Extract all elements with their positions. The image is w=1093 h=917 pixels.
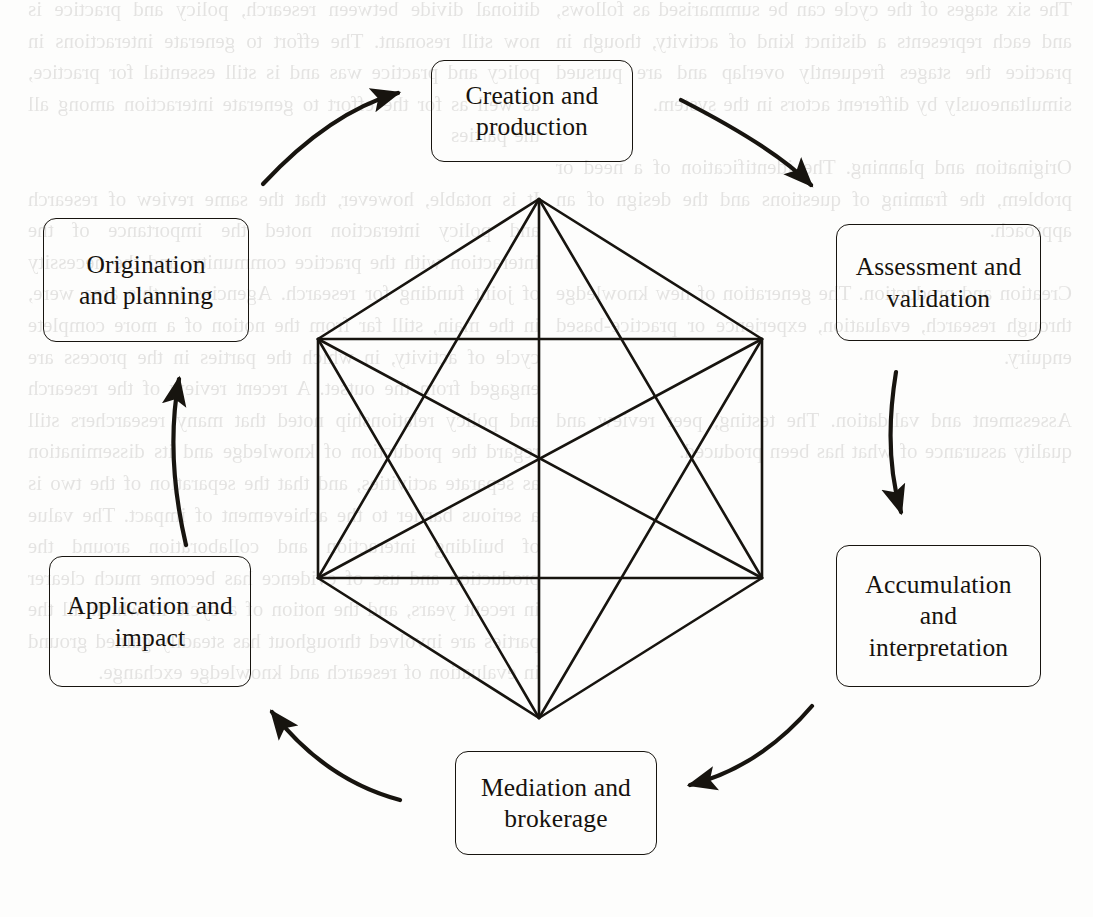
arrow-accumulation-to-mediation [690, 706, 812, 785]
node-mediation-label: Mediation and brokerage [473, 772, 639, 834]
node-assessment-and-validation[interactable]: Assessment and validation [836, 224, 1041, 341]
node-assessment-label: Assessment and validation [848, 251, 1030, 313]
hex-edge-top-to-topright [539, 199, 762, 339]
arrow-origination-to-creation [263, 93, 398, 184]
node-creation-label: Creation and production [458, 80, 607, 142]
node-application-label: Application and impact [59, 590, 241, 652]
node-accumulation-label: Accumulation and interpretation [857, 569, 1019, 662]
arrow-assessment-to-accumulation [891, 372, 901, 512]
hex-diagonal-top-to-bottomright [539, 199, 762, 578]
hexagon-complete-graph [318, 199, 762, 718]
arrow-application-to-origination [173, 379, 186, 545]
arrow-creation-to-assessment [681, 100, 811, 185]
node-creation-and-production[interactable]: Creation and production [431, 60, 633, 162]
node-origination-label: Origination and planning [71, 249, 221, 311]
node-origination-and-planning[interactable]: Origination and planning [43, 218, 249, 342]
node-application-and-impact[interactable]: Application and impact [49, 556, 251, 687]
hex-edge-bottomright-to-bottom [539, 578, 762, 718]
diagram-page: ditional divide between research, policy… [0, 0, 1093, 917]
hex-edge-bottom-to-bottomleft [318, 578, 539, 718]
arrow-mediation-to-application [272, 712, 400, 800]
hex-diagonal-bottomleft-to-top [318, 199, 539, 578]
hex-edge-topleft-to-top [318, 199, 539, 339]
hex-diagonal-topright-to-bottom [539, 339, 762, 718]
node-mediation-and-brokerage[interactable]: Mediation and brokerage [455, 751, 657, 855]
hex-diagonal-bottom-to-topleft [318, 339, 539, 718]
node-accumulation-and-interpretation[interactable]: Accumulation and interpretation [836, 545, 1041, 687]
